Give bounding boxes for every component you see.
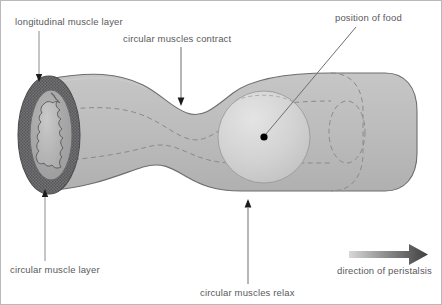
label-circular-muscles-relax: circular muscles relax — [200, 288, 295, 298]
peristalsis-diagram: longitudinal muscle layer circular muscl… — [0, 0, 442, 305]
arrowhead-relax — [245, 199, 252, 208]
food-marker-dot — [260, 133, 267, 140]
label-position-of-food: position of food — [335, 13, 402, 23]
cross-section — [18, 76, 80, 194]
label-direction-of-peristalsis: direction of peristalsis — [337, 266, 432, 276]
peristalsis-arrow-shape — [349, 244, 428, 265]
label-circular-muscles-contract: circular muscles contract — [123, 34, 231, 44]
label-circular-muscle-layer: circular muscle layer — [10, 265, 100, 275]
arrowhead-contract — [178, 98, 185, 107]
label-longitudinal-muscle-layer: longitudinal muscle layer — [15, 17, 123, 27]
peristalsis-arrow — [349, 244, 428, 265]
diagram-canvas — [1, 1, 442, 305]
